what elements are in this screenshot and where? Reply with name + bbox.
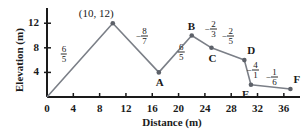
slope-fraction: 23 xyxy=(210,19,217,38)
slope-denominator: 6 xyxy=(271,76,278,86)
slope-label: −25 xyxy=(222,26,234,45)
slope-fraction: 65 xyxy=(61,45,68,64)
slope-label: −16 xyxy=(266,67,278,86)
slope-fraction: 41 xyxy=(252,61,259,80)
data-point-marker xyxy=(209,46,214,51)
axes xyxy=(47,8,300,97)
slope-sign: − xyxy=(136,31,141,40)
x-tick-label: 16 xyxy=(147,103,158,114)
slope-label: −87 xyxy=(136,26,148,45)
y-axis-title: Elevation (m) xyxy=(14,28,25,92)
slope-denominator: 7 xyxy=(141,35,148,45)
x-tick-label: 28 xyxy=(226,103,237,114)
data-point-marker xyxy=(288,87,293,92)
slope-denominator: 3 xyxy=(210,28,217,38)
slope-label: 65 xyxy=(178,42,185,61)
elevation-distance-chart: Elevation (m) Distance (m) 0481216202428… xyxy=(0,0,305,134)
data-point-marker xyxy=(249,82,254,87)
slope-label: 65 xyxy=(61,45,68,64)
slope-numerator: 2 xyxy=(227,26,234,35)
slope-numerator: 4 xyxy=(252,61,259,70)
slope-sign: − xyxy=(222,31,227,40)
slope-label: −23 xyxy=(205,19,217,38)
point-label-C: C xyxy=(208,53,216,64)
point-label-E: E xyxy=(242,89,249,100)
slope-numerator: 2 xyxy=(210,19,217,28)
slope-fraction: 65 xyxy=(178,42,185,61)
y-tick-label: 4 xyxy=(34,66,40,77)
point-label-1012: (10, 12) xyxy=(79,8,114,19)
slope-numerator: 8 xyxy=(141,26,148,35)
slope-denominator: 5 xyxy=(178,51,185,61)
data-point-marker xyxy=(157,70,162,75)
x-tick-label: 24 xyxy=(199,103,210,114)
point-label-F: F xyxy=(293,74,300,85)
data-point-marker xyxy=(110,21,115,26)
x-tick-label: 4 xyxy=(71,103,77,114)
slope-numerator: 6 xyxy=(61,45,68,54)
x-tick-label: 12 xyxy=(120,103,131,114)
x-tick-label: 0 xyxy=(44,103,50,114)
point-label-D: D xyxy=(247,45,255,56)
slope-numerator: 6 xyxy=(178,42,185,51)
slope-denominator: 1 xyxy=(252,70,259,80)
y-tick-label: 12 xyxy=(28,17,39,28)
x-tick-label: 8 xyxy=(97,103,103,114)
slope-denominator: 5 xyxy=(227,35,234,45)
point-label-A: A xyxy=(156,77,164,88)
x-axis-title: Distance (m) xyxy=(142,117,202,128)
x-tick-label: 32 xyxy=(252,103,263,114)
slope-sign: − xyxy=(266,72,271,81)
slope-fraction: 87 xyxy=(141,26,148,45)
slope-denominator: 5 xyxy=(61,54,68,64)
slope-sign: − xyxy=(205,24,210,33)
slope-numerator: 1 xyxy=(271,67,278,76)
x-tick-label: 36 xyxy=(278,103,289,114)
x-tick-label: 20 xyxy=(173,103,184,114)
slope-fraction: 16 xyxy=(271,67,278,86)
data-point-marker xyxy=(189,33,194,38)
slope-label: −41 xyxy=(247,61,259,80)
slope-fraction: 25 xyxy=(227,26,234,45)
y-tick-label: 8 xyxy=(34,42,40,53)
point-label-B: B xyxy=(188,21,195,32)
slope-sign: − xyxy=(247,66,252,75)
